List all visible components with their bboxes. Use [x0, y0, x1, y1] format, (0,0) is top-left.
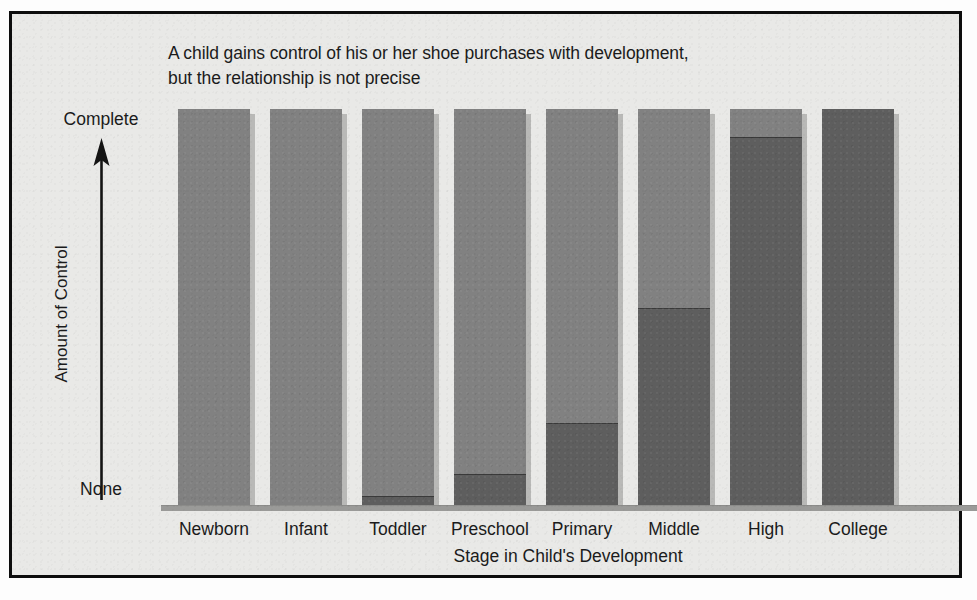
x-tick-label-newborn: Newborn — [168, 519, 260, 540]
x-tick-label-infant: Infant — [260, 519, 352, 540]
figure: A child gains control of his or her shoe… — [0, 0, 977, 600]
x-tick-label-college: College — [812, 519, 904, 540]
bar-segment-child-control — [822, 109, 894, 506]
bar-group — [454, 109, 526, 506]
bar-high[interactable] — [730, 109, 802, 506]
bar-primary[interactable] — [546, 109, 618, 506]
bar-infant[interactable] — [270, 109, 342, 506]
y-axis-title: Amount of Control — [52, 204, 72, 424]
x-axis-baseline — [161, 505, 977, 511]
bar-toddler[interactable] — [362, 109, 434, 506]
bar-segment-child-control — [454, 474, 526, 506]
bar-group — [730, 109, 802, 506]
chart-title: A child gains control of his or her shoe… — [168, 41, 868, 91]
y-axis-max-label: Complete — [38, 109, 164, 130]
bar-segment-child-control — [638, 308, 710, 507]
plot-area — [168, 104, 968, 506]
bar-group — [822, 109, 894, 506]
y-axis-arrow-icon — [86, 138, 118, 500]
x-tick-label-preschool: Preschool — [444, 519, 536, 540]
chart-title-line-2: but the relationship is not precise — [168, 66, 868, 91]
bar-preschool[interactable] — [454, 109, 526, 506]
x-tick-label-primary: Primary — [536, 519, 628, 540]
chart-title-line-1: A child gains control of his or her shoe… — [168, 41, 868, 66]
bar-group — [546, 109, 618, 506]
bar-group — [270, 109, 342, 506]
bar-middle[interactable] — [638, 109, 710, 506]
bar-college[interactable] — [822, 109, 894, 506]
bar-newborn[interactable] — [178, 109, 250, 506]
bar-segment-child-control — [730, 137, 802, 506]
bar-segment-child-control — [546, 423, 618, 506]
bar-group — [362, 109, 434, 506]
x-tick-label-middle: Middle — [628, 519, 720, 540]
x-tick-label-high: High — [720, 519, 812, 540]
bar-group — [638, 109, 710, 506]
chart-frame: A child gains control of his or her shoe… — [9, 11, 962, 578]
x-axis-title: Stage in Child's Development — [168, 546, 968, 567]
x-tick-label-toddler: Toddler — [352, 519, 444, 540]
bar-group — [178, 109, 250, 506]
